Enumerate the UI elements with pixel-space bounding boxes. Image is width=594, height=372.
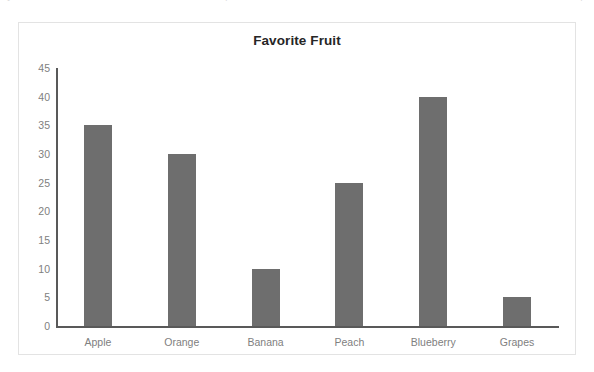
y-axis-tick-label: 20 bbox=[28, 205, 50, 217]
clipped-header-left-text: Question 4 of 12 Use the bar chart below… bbox=[4, 0, 258, 1]
bar-peach[interactable] bbox=[335, 183, 363, 326]
bar-banana[interactable] bbox=[252, 269, 280, 326]
bar-blueberry[interactable] bbox=[419, 97, 447, 326]
y-axis-tick-label: 0 bbox=[28, 320, 50, 332]
chart-title: Favorite Fruit bbox=[19, 33, 575, 48]
x-axis-label-blueberry: Blueberry bbox=[411, 336, 456, 348]
bar-apple[interactable] bbox=[84, 125, 112, 326]
y-axis-line bbox=[56, 68, 58, 326]
x-axis-label-peach: Peach bbox=[335, 336, 365, 348]
y-axis-tick-label: 25 bbox=[28, 177, 50, 189]
x-axis-line bbox=[56, 326, 559, 328]
chart-container: Favorite Fruit 454035302520151050 AppleO… bbox=[18, 22, 576, 355]
plot-area: 454035302520151050 AppleOrangeBananaPeac… bbox=[56, 68, 559, 326]
x-axis-label-apple: Apple bbox=[84, 336, 111, 348]
bar-orange[interactable] bbox=[168, 154, 196, 326]
y-axis-tick-label: 30 bbox=[28, 148, 50, 160]
y-axis-tick-label: 35 bbox=[28, 119, 50, 131]
y-axis-tick-label: 40 bbox=[28, 91, 50, 103]
clipped-header-strip: Question 4 of 12 Use the bar chart below… bbox=[0, 0, 594, 10]
y-axis-tick-label: 5 bbox=[28, 291, 50, 303]
clipped-header-right-text: 0 / 1 pt bbox=[561, 0, 588, 1]
x-axis-label-orange: Orange bbox=[164, 336, 199, 348]
bar-grapes[interactable] bbox=[503, 297, 531, 326]
y-axis-tick-label: 10 bbox=[28, 263, 50, 275]
y-axis-tick-label: 15 bbox=[28, 234, 50, 246]
x-axis-label-grapes: Grapes bbox=[500, 336, 534, 348]
x-axis-label-banana: Banana bbox=[247, 336, 283, 348]
y-axis-tick-label: 45 bbox=[28, 62, 50, 74]
